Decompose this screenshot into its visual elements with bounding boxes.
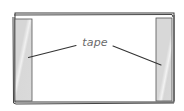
paper-sheet: [13, 13, 174, 104]
tape-strip-right: [156, 18, 172, 101]
tape-label: tape: [79, 36, 111, 50]
tape-diagram: tape: [0, 0, 184, 111]
tape-strip-left: [15, 19, 32, 101]
diagram-drawing: [0, 0, 184, 111]
